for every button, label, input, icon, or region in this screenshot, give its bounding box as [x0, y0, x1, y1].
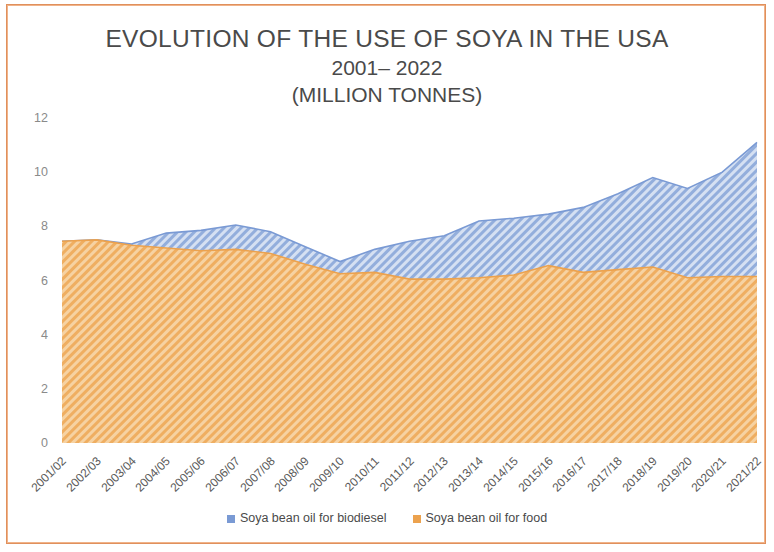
chart-legend: Soya bean oil for biodiesel Soya bean oi…	[0, 512, 774, 525]
y-axis-tick-12: 12	[14, 112, 48, 124]
y-axis-tick-4: 4	[14, 329, 48, 341]
legend-label-biodiesel: Soya bean oil for biodiesel	[240, 512, 387, 525]
legend-item-biodiesel[interactable]: Soya bean oil for biodiesel	[227, 512, 387, 525]
y-axis-tick-6: 6	[14, 275, 48, 287]
chart-page: EVOLUTION OF THE USE OF SOYA IN THE USA …	[0, 0, 774, 552]
legend-swatch-biodiesel	[227, 515, 235, 523]
y-axis-tick-10: 10	[14, 166, 48, 178]
y-axis-tick-2: 2	[14, 383, 48, 395]
legend-item-food[interactable]: Soya bean oil for food	[413, 512, 548, 525]
y-axis-tick-8: 8	[14, 220, 48, 232]
chart-plot-area: 024681012 2001/022002/032003/042004/0520…	[0, 0, 774, 552]
legend-label-food: Soya bean oil for food	[426, 512, 548, 525]
legend-swatch-food	[413, 515, 421, 523]
y-axis-tick-0: 0	[14, 437, 48, 449]
